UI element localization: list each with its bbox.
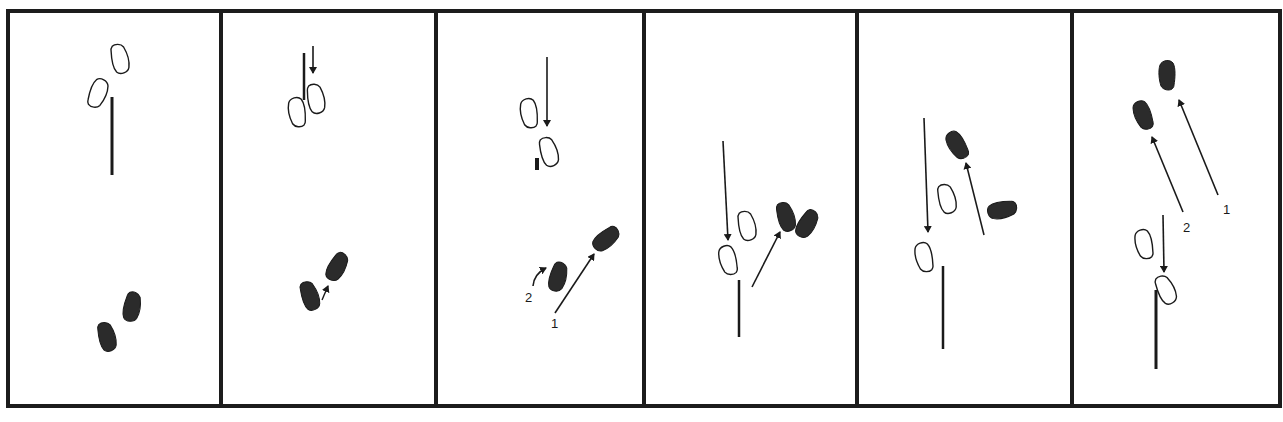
movement-arrow-icon xyxy=(752,232,780,287)
panel-5 xyxy=(913,118,1018,349)
filled-footprint-icon xyxy=(96,320,119,352)
hollow-footprint-icon xyxy=(936,182,959,214)
hollow-footprint-icon xyxy=(736,210,758,242)
filled-footprint-icon xyxy=(121,291,143,323)
movement-arrow-icon xyxy=(1152,137,1183,212)
step-label: 2 xyxy=(525,290,532,305)
hollow-footprint-icon xyxy=(1133,228,1155,260)
filled-footprint-icon xyxy=(793,207,822,241)
movement-arrow-icon xyxy=(1179,100,1218,195)
step-label: 2 xyxy=(1183,220,1190,235)
step-label: 1 xyxy=(551,316,558,331)
movement-arrow-icon xyxy=(322,286,328,300)
hollow-footprint-icon xyxy=(109,43,131,75)
movement-arrow-icon xyxy=(966,163,984,235)
filled-footprint-icon xyxy=(774,200,798,233)
hollow-footprint-icon xyxy=(287,97,307,128)
step-label: 1 xyxy=(1223,202,1230,217)
filled-footprint-icon xyxy=(590,223,623,254)
hollow-footprint-icon xyxy=(717,244,740,276)
movement-arrow-icon xyxy=(1163,215,1164,272)
panel-2 xyxy=(287,46,352,312)
filled-footprint-icon xyxy=(323,250,352,284)
filled-footprint-icon xyxy=(546,260,570,293)
movement-arrow-icon xyxy=(924,118,928,232)
hollow-footprint-icon xyxy=(85,77,110,110)
filled-footprint-icon xyxy=(1130,99,1155,132)
panel-3: 2 1 xyxy=(519,57,623,331)
panel-1 xyxy=(85,43,143,353)
filled-footprint-icon xyxy=(1159,61,1175,90)
filled-footprint-icon xyxy=(943,128,972,162)
diagram-stage: 2 1 2 1 xyxy=(0,0,1283,422)
hollow-footprint-icon xyxy=(519,98,539,129)
hollow-footprint-icon xyxy=(306,83,327,115)
movement-arrow-icon xyxy=(533,268,546,286)
filled-footprint-icon xyxy=(298,279,322,312)
tether-line xyxy=(535,158,539,170)
panel-4 xyxy=(717,141,822,337)
filled-footprint-icon xyxy=(986,200,1018,221)
hollow-footprint-icon xyxy=(913,241,935,273)
hollow-footprint-icon xyxy=(537,135,561,168)
panel-6: 2 1 xyxy=(1130,61,1230,369)
movement-arrow-icon xyxy=(723,141,728,240)
panel-frame xyxy=(8,11,1280,408)
